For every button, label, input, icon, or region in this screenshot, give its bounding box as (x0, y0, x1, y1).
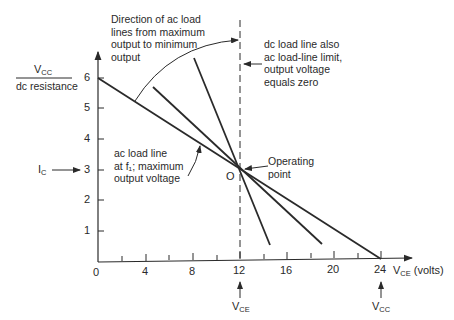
x-axis-title: VCE (volts) (393, 264, 444, 281)
x-axis (98, 258, 412, 262)
dc-resistance-denominator: dc resistance (16, 80, 78, 93)
y-tick-3: 3 (84, 163, 90, 175)
operating-point-annotation: Operating point (268, 155, 314, 180)
vce-marker-label: VCE (232, 300, 250, 317)
direction-annotation: Direction of ac load lines from maximum … (111, 13, 205, 63)
dc-limit-annotation: dc load line also ac load-line limit, ou… (264, 38, 342, 88)
vcc-marker-label: VCC (372, 300, 390, 317)
x-tick-12: 12 (233, 264, 245, 276)
ac-max-annotation: ac load line at f₁; maximum output volta… (114, 147, 183, 185)
ac-load-line-steep (194, 58, 270, 245)
x-tick-16: 16 (280, 264, 292, 276)
x-tick-4: 4 (142, 265, 148, 277)
y-tick-5: 5 (84, 101, 90, 113)
y-tick-2: 2 (84, 193, 90, 205)
y-tick-1: 1 (84, 224, 90, 236)
y-tick-4: 4 (84, 132, 90, 144)
y-tick-6: 6 (84, 71, 90, 83)
x-tick-8: 8 (189, 265, 195, 277)
vcc-numerator: VCC (34, 63, 52, 80)
ic-label: IC (38, 163, 46, 180)
x-tick-0: 0 (93, 266, 99, 278)
operating-point-o-label: O (226, 170, 235, 183)
x-tick-24: 24 (374, 263, 386, 275)
operating-point-arrow (245, 166, 268, 169)
ac-max-arrow (188, 146, 200, 176)
y-ticks (98, 78, 104, 231)
x-tick-20: 20 (327, 263, 339, 275)
